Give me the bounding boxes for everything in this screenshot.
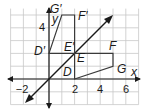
vertex-label-E-prime: E′ xyxy=(64,40,75,54)
vertex-label-D: D xyxy=(63,65,72,79)
x-tick-label: 4 xyxy=(97,83,103,95)
coordinate-plane: −2 2 4 6 4 x y D E F G D′ E′ F′ G′ xyxy=(0,0,146,111)
vertex-label-D-prime: D′ xyxy=(34,44,46,58)
vertex-label-E: E xyxy=(77,51,86,65)
y-axis-arrow-down-icon xyxy=(46,103,52,109)
vertex-label-F-prime: F′ xyxy=(78,9,88,23)
vertex-label-G-prime: G′ xyxy=(50,2,62,16)
x-tick-label: −2 xyxy=(16,83,29,95)
x-axis-arrow-left-icon xyxy=(7,76,13,82)
x-tick-label: 2 xyxy=(72,83,78,95)
x-tick-label: 6 xyxy=(123,83,129,95)
y-tick-label: 4 xyxy=(39,21,45,33)
x-axis-label: x xyxy=(130,65,138,79)
vertex-label-G: G xyxy=(117,62,126,76)
vertex-label-F: F xyxy=(109,39,117,53)
